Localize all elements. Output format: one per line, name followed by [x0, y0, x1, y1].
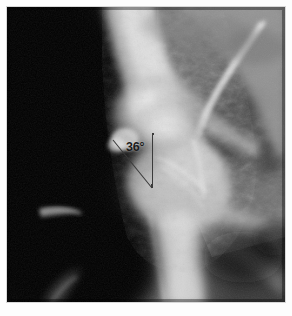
radiograph-frame: 36°	[7, 7, 285, 302]
radiograph-image	[7, 7, 285, 302]
angle-value-label: 36°	[126, 141, 144, 154]
figure-root: 36°	[0, 0, 292, 316]
